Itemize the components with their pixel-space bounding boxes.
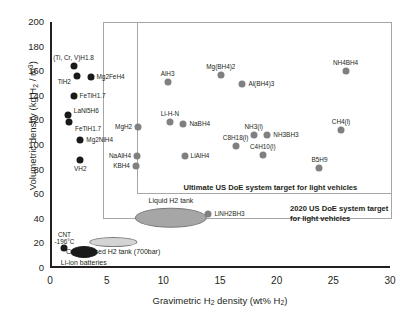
y-tick-label: 0: [10, 263, 44, 273]
data-point-label: NH3(l): [244, 124, 262, 130]
data-point: [87, 74, 94, 81]
data-point-label: CNT-196°C: [54, 232, 74, 245]
data-point: [73, 73, 80, 80]
data-point: [132, 162, 139, 169]
x-tick-label: 0: [35, 276, 65, 286]
data-point-label: FeTiH1.7: [80, 93, 106, 99]
data-point-label: Li-H-N: [161, 110, 179, 116]
y-tick-label: 40: [10, 214, 44, 224]
data-point: [338, 127, 345, 134]
data-point-label: Mg2FeH4: [97, 74, 125, 80]
data-point: [259, 151, 266, 158]
data-point-label: Al(BH4)3: [248, 80, 274, 86]
data-point: [164, 79, 171, 86]
region-compressed_tank: [90, 237, 137, 247]
data-point: [217, 71, 224, 78]
chart-container: Volumetric density (kg H2 / m3) Gravimet…: [0, 0, 400, 313]
data-point: [134, 153, 141, 160]
doe-2020-target-line2: for light vehicles: [290, 214, 388, 223]
y-tick-label: 160: [10, 66, 44, 76]
data-point: [166, 118, 173, 125]
data-point-label: Mg2NiH4: [86, 137, 113, 143]
y-tick-label: 60: [10, 189, 44, 199]
data-point-label: LiNH2BH3: [214, 211, 244, 217]
y-tick-label: 20: [10, 239, 44, 249]
x-tick-label: 5: [92, 276, 122, 286]
plot-inner: Ultimate US DoE system target for light …: [52, 22, 390, 266]
data-point: [264, 132, 271, 139]
data-point: [77, 137, 84, 144]
cnt-label-line2: -196°C: [54, 239, 74, 245]
region-liquid_tank: [135, 207, 207, 227]
data-point-label: Mg(BH4)2: [206, 64, 235, 70]
data-point: [316, 165, 323, 172]
data-point: [342, 68, 349, 75]
data-point-label: TiH2: [58, 79, 71, 85]
x-tick-label: 10: [148, 276, 178, 286]
x-tick-label: 30: [375, 276, 400, 286]
data-point-label: NaAlH4: [109, 153, 131, 159]
data-point-label: LaNi5H6: [74, 108, 99, 114]
data-point-label: VH2: [74, 166, 86, 172]
data-point-label: MgH2: [115, 123, 132, 129]
data-point: [70, 92, 77, 99]
plot-area: Ultimate US DoE system target for light …: [50, 22, 390, 268]
data-point-label: NaBH4: [189, 121, 210, 127]
region-liion: [70, 246, 97, 258]
data-point-label: CH4(l): [332, 119, 350, 125]
data-point-label: C8H18(l): [223, 135, 249, 141]
y-tick-label: 120: [10, 116, 44, 126]
data-point: [239, 80, 246, 87]
data-point-label: (Ti, Cr, V)H1.8: [53, 55, 94, 61]
data-point-label: B5H9: [311, 157, 327, 163]
data-point: [61, 245, 68, 252]
data-point: [181, 153, 188, 160]
data-point: [77, 156, 84, 163]
region-label-liquid_tank: Liquid H2 tank: [149, 197, 194, 205]
data-point-label: KBH4: [113, 163, 130, 169]
y-tick-label: 100: [10, 140, 44, 150]
data-point: [135, 123, 142, 130]
y-tick-label: 180: [10, 42, 44, 52]
data-point-label: FeTiH1.7: [75, 125, 101, 131]
x-tick-label: 25: [318, 276, 348, 286]
data-point-label: LiAlH4: [191, 153, 210, 159]
data-point: [66, 118, 73, 125]
data-point-label: C4H10(l): [250, 144, 276, 150]
x-tick-label: 15: [205, 276, 235, 286]
data-point: [250, 132, 257, 139]
data-point: [205, 210, 212, 217]
data-point-label: NH4BH4: [333, 60, 358, 66]
data-point-label: NH3BH3: [273, 132, 298, 138]
doe-2020-target-label: 2020 US DoE system targetfor light vehic…: [290, 204, 388, 223]
y-tick-label: 140: [10, 91, 44, 101]
doe-2020-target-line1: 2020 US DoE system target: [290, 204, 388, 213]
data-point: [232, 143, 239, 150]
data-point-label: AlH3: [161, 71, 175, 77]
x-tick-label: 20: [262, 276, 292, 286]
y-tick-label: 80: [10, 165, 44, 175]
data-point: [180, 121, 187, 128]
y-tick-label: 200: [10, 17, 44, 27]
data-point: [70, 63, 77, 70]
region-label-liion: Li-ion batteries: [61, 259, 107, 267]
x-axis-title: Gravimetric H2 density (wt% H2): [50, 295, 390, 306]
ultimate-doe-target-label: Ultimate US DoE system target for light …: [183, 183, 357, 192]
